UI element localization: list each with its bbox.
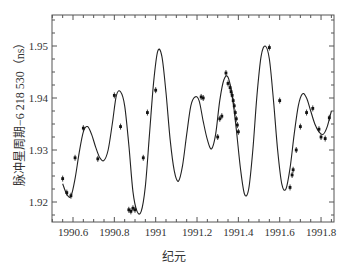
- y-axis-label: 脉冲星周期−6 218 530（ns）: [10, 46, 26, 186]
- svg-text:1990.8: 1990.8: [99, 226, 130, 238]
- svg-text:1991.6: 1991.6: [265, 226, 296, 238]
- pulsar-period-chart: 1990.61990.819911991.21991.41991.61991.8…: [0, 0, 348, 273]
- axis-ticks: [52, 15, 334, 222]
- svg-text:1.93: 1.93: [29, 144, 49, 156]
- x-axis-label: 纪元: [0, 247, 348, 265]
- svg-text:1991: 1991: [145, 226, 167, 238]
- plot-frame: [52, 15, 334, 222]
- tick-labels: 1990.61990.819911991.21991.41991.61991.8…: [29, 40, 337, 238]
- svg-text:1.94: 1.94: [29, 92, 49, 104]
- svg-text:1.95: 1.95: [29, 40, 49, 52]
- svg-text:1991.2: 1991.2: [182, 226, 212, 238]
- svg-text:1990.6: 1990.6: [58, 226, 89, 238]
- fit-curve: [63, 46, 332, 214]
- svg-text:1991.8: 1991.8: [306, 226, 337, 238]
- svg-text:1.92: 1.92: [29, 196, 48, 208]
- svg-text:1991.4: 1991.4: [223, 226, 254, 238]
- data-points: [61, 45, 330, 215]
